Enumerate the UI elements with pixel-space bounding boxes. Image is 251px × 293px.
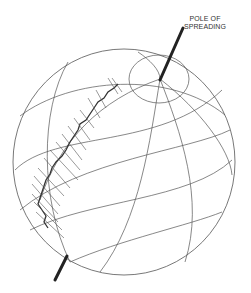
globe-outline xyxy=(13,49,235,275)
rotation-axis xyxy=(55,28,183,280)
globe-diagram xyxy=(0,0,251,293)
transform-faults xyxy=(32,78,122,238)
ridge-segments xyxy=(38,84,118,228)
